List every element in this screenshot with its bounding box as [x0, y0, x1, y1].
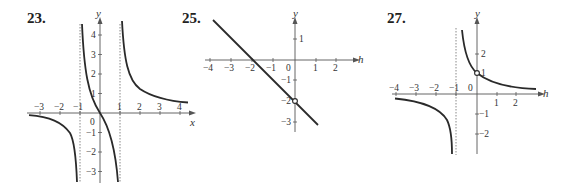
svg-text:−3: −3: [34, 102, 44, 112]
svg-text:1: 1: [313, 63, 318, 73]
svg-text:−4: −4: [203, 63, 213, 73]
svg-text:1: 1: [117, 102, 122, 112]
open-point: [293, 99, 298, 104]
svg-text:4: 4: [177, 102, 182, 112]
svg-text:3: 3: [157, 102, 162, 112]
curve-left-branch: [29, 115, 77, 182]
svg-text:−1: −1: [73, 102, 83, 112]
svg-text:3: 3: [91, 50, 96, 60]
svg-text:h: h: [358, 53, 364, 65]
svg-text:2: 2: [481, 49, 486, 59]
svg-text:−2: −2: [429, 83, 439, 93]
svg-text:−3: −3: [409, 83, 419, 93]
svg-text:−3: −3: [281, 117, 291, 127]
svg-text:−1: −1: [449, 83, 459, 93]
svg-text:h: h: [543, 87, 549, 99]
svg-text:−2: −2: [54, 102, 64, 112]
svg-text:2: 2: [333, 63, 338, 73]
graph-23-plot: −3 −2 −1 1 2 3 4 4 3 2 1 −1 −2 −3 0 y x: [0, 0, 195, 190]
svg-text:2: 2: [137, 102, 142, 112]
curve-right-branch: [122, 21, 188, 103]
graph-25-plot: −4 −3 −2 −1 0 1 2 1 −1 −2 −3 y h: [195, 0, 380, 190]
svg-text:2: 2: [91, 69, 96, 79]
svg-text:4: 4: [91, 30, 96, 40]
svg-text:y: y: [474, 7, 480, 19]
svg-text:−4: −4: [389, 83, 399, 93]
svg-text:0: 0: [90, 117, 95, 127]
svg-text:y: y: [292, 7, 298, 19]
svg-text:0: 0: [468, 83, 473, 93]
curve-left-branch: [395, 99, 452, 155]
graph-23: 23. −3 −2 −1 1 2 3 4 4 3 2 1 −1 −2: [0, 0, 195, 190]
svg-text:−1: −1: [479, 109, 489, 119]
svg-text:1: 1: [494, 98, 499, 108]
svg-text:−1: −1: [281, 75, 291, 85]
svg-text:−2: −2: [479, 129, 489, 139]
svg-text:−1: −1: [266, 63, 276, 73]
graph-27-plot: −4 −3 −2 −1 1 2 2 1 −1 −2 0 y h: [380, 0, 577, 190]
svg-text:−2: −2: [245, 63, 255, 73]
graph-25: 25. −4 −3 −2 −1 0 1 2 1 −1 −2 −3: [195, 0, 380, 190]
curve-right-branch: [462, 30, 536, 89]
graph-27: 27. −4 −3 −2 −1 1 2 2 1 −1 −2 0: [380, 0, 577, 190]
svg-text:−3: −3: [224, 63, 234, 73]
svg-text:−1: −1: [86, 128, 96, 138]
svg-text:1: 1: [299, 34, 304, 44]
svg-text:y: y: [95, 7, 101, 19]
open-point: [475, 71, 480, 76]
svg-text:−3: −3: [86, 167, 96, 177]
svg-text:2: 2: [513, 98, 518, 108]
svg-text:−2: −2: [86, 147, 96, 157]
svg-text:0: 0: [286, 63, 291, 73]
